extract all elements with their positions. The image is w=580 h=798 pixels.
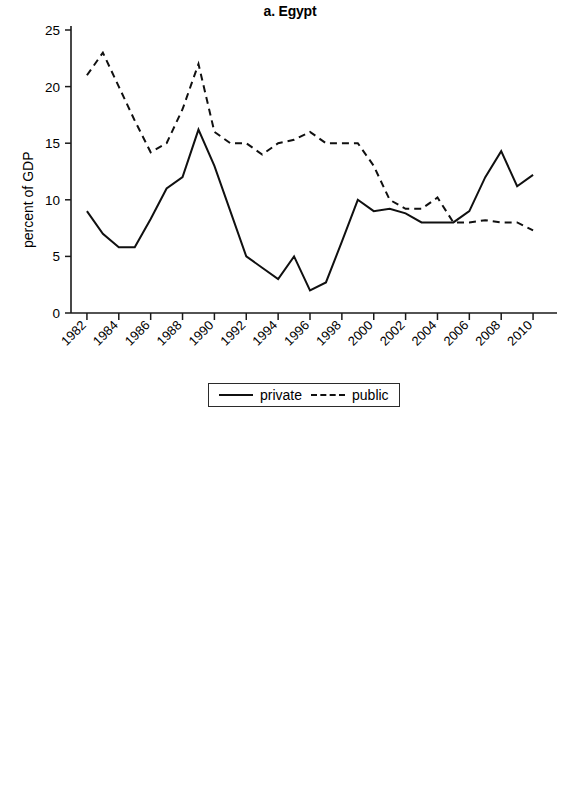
y-tick-label: 15 (45, 136, 60, 151)
legend-item-private-egypt: private (219, 388, 302, 402)
panel-title-egypt: a. Egypt (0, 3, 580, 19)
plot-area-egypt: 0510152025198219841986198819901992199419… (0, 22, 580, 392)
figure-page: a. Egypt percent of GDP 0510152025198219… (0, 0, 580, 798)
x-tick-label: 1994 (249, 318, 280, 349)
x-tick-label: 2006 (440, 318, 471, 349)
y-tick-label: 25 (45, 23, 60, 38)
x-tick-label: 2002 (377, 318, 408, 349)
x-tick-label: 1986 (122, 318, 153, 349)
x-tick-label: 1982 (58, 318, 89, 349)
x-tick-label: 1990 (185, 318, 216, 349)
series-line-public (87, 53, 533, 231)
x-tick-label: 1984 (90, 318, 121, 349)
legend-label-private: private (260, 388, 302, 402)
y-tick-label: 5 (52, 249, 60, 264)
x-tick-label: 2008 (472, 318, 503, 349)
y-tick-label: 10 (45, 193, 60, 208)
legend-item-public-egypt: public (311, 388, 389, 402)
chart-panel-jordan: b. Jordan percent of GDP 051015202530198… (0, 418, 580, 798)
series-line-private (87, 130, 533, 291)
legend-egypt: private public (208, 383, 400, 407)
x-tick-label: 1998 (313, 318, 344, 349)
legend-line-dashed-icon (311, 394, 345, 396)
chart-svg-egypt: 0510152025198219841986198819901992199419… (0, 22, 580, 392)
legend-label-public: public (352, 388, 389, 402)
legend-line-solid-icon (219, 394, 253, 396)
y-tick-label: 0 (52, 306, 60, 321)
y-tick-label: 20 (45, 80, 60, 95)
x-tick-label: 1992 (217, 318, 248, 349)
x-tick-label: 2004 (409, 318, 440, 349)
x-tick-label: 2010 (504, 318, 535, 349)
x-tick-label: 2000 (345, 318, 376, 349)
x-tick-label: 1996 (281, 318, 312, 349)
chart-panel-egypt: a. Egypt percent of GDP 0510152025198219… (0, 0, 580, 418)
x-tick-label: 1988 (154, 318, 185, 349)
